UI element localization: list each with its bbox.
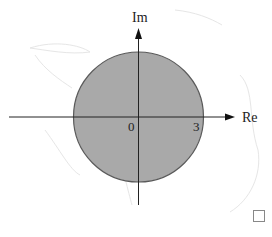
radius-label: 3 xyxy=(193,119,200,134)
complex-plane-diagram: Im Re 0 3 xyxy=(0,0,272,237)
real-axis-label: Re xyxy=(242,110,258,125)
origin-label: 0 xyxy=(128,119,135,134)
imag-axis-arrow-icon xyxy=(135,28,142,39)
end-marker-icon xyxy=(254,211,265,222)
real-axis-arrow-icon xyxy=(225,114,235,121)
imag-axis-label: Im xyxy=(132,10,148,25)
